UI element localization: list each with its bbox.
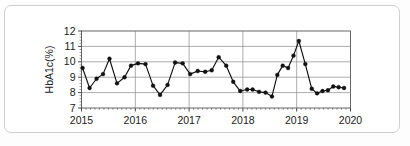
data-point-marker xyxy=(337,85,341,89)
data-point-marker xyxy=(95,77,99,81)
x-tick-label: 2015 xyxy=(70,114,94,126)
data-point-marker xyxy=(292,54,296,58)
data-point-marker xyxy=(281,64,285,68)
data-point-marker xyxy=(210,68,214,72)
y-tick-label: 9 xyxy=(70,71,76,83)
x-tick-label: 2016 xyxy=(124,114,148,126)
data-point-marker xyxy=(310,87,314,91)
data-point-marker xyxy=(275,73,279,77)
data-point-marker xyxy=(264,91,268,95)
y-tick-label: 11 xyxy=(65,40,76,52)
data-point-marker xyxy=(108,57,112,61)
data-point-marker xyxy=(257,90,261,94)
data-point-marker xyxy=(286,66,290,70)
data-point-marker xyxy=(144,62,148,66)
data-point-marker xyxy=(326,88,330,92)
data-point-marker xyxy=(151,84,155,88)
data-point-marker xyxy=(231,80,235,84)
data-point-marker xyxy=(315,91,319,95)
data-point-marker xyxy=(123,75,127,79)
data-point-marker xyxy=(136,61,140,65)
x-tick-label: 2019 xyxy=(285,114,309,126)
x-tick-label: 2017 xyxy=(177,114,201,126)
data-point-marker xyxy=(88,86,92,90)
data-point-marker xyxy=(166,83,170,87)
y-tick-label: 10 xyxy=(64,55,76,67)
y-tick-label: 12 xyxy=(64,25,76,37)
chart-svg: 789101112201520162017201820192020HbA1c(%… xyxy=(0,0,410,146)
y-tick-label: 7 xyxy=(70,102,76,114)
data-point-marker xyxy=(196,69,200,73)
data-point-marker xyxy=(115,81,119,85)
data-point-marker xyxy=(331,84,335,88)
data-point-marker xyxy=(81,66,85,70)
data-point-marker xyxy=(129,64,133,68)
data-point-marker xyxy=(181,61,185,65)
data-point-marker xyxy=(270,95,274,99)
x-tick-label: 2018 xyxy=(231,114,255,126)
page-background: 789101112201520162017201820192020HbA1c(%… xyxy=(0,0,410,146)
hba1c-line-chart: 789101112201520162017201820192020HbA1c(%… xyxy=(0,0,410,146)
x-tick-label: 2020 xyxy=(339,114,363,126)
data-point-marker xyxy=(203,70,207,74)
data-point-marker xyxy=(224,64,228,68)
data-point-marker xyxy=(303,62,307,66)
data-point-marker xyxy=(245,88,249,92)
data-point-marker xyxy=(342,86,346,90)
data-point-marker xyxy=(251,88,255,92)
data-point-marker xyxy=(188,72,192,76)
data-point-marker xyxy=(173,61,177,65)
data-point-marker xyxy=(158,93,162,97)
data-point-marker xyxy=(238,89,242,93)
data-point-marker xyxy=(297,39,301,43)
data-point-marker xyxy=(101,72,105,76)
plot-frame xyxy=(82,31,351,108)
y-tick-label: 8 xyxy=(70,86,76,98)
y-axis-title: HbA1c(%) xyxy=(43,46,55,94)
data-point-marker xyxy=(321,89,325,93)
data-point-marker xyxy=(217,55,221,59)
